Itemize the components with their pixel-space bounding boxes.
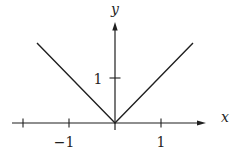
abs-value-plot: −1 1 1 x y <box>0 0 233 161</box>
y-axis-label: y <box>110 1 120 17</box>
x-axis-arrowhead-icon <box>197 120 206 125</box>
x-tick-label-pos-1: 1 <box>157 134 166 150</box>
x-axis-label: x <box>221 109 229 125</box>
plot-canvas: −1 1 1 x y <box>0 0 233 161</box>
y-tick-label-pos-1: 1 <box>94 71 103 87</box>
x-tick-label-neg-1: −1 <box>54 134 75 150</box>
y-axis-arrowhead-icon <box>112 22 117 31</box>
